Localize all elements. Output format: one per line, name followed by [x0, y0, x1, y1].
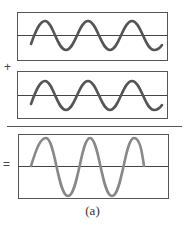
panel-sum-wave — [19, 135, 169, 199]
panel-wave-1 — [18, 13, 168, 61]
panel-wave-2 — [18, 72, 168, 119]
equals-operator: = — [3, 157, 10, 171]
panel-frame — [18, 13, 168, 61]
superposition-diagram — [0, 0, 185, 231]
figure-caption: (a) — [0, 203, 185, 219]
plus-operator: + — [4, 60, 11, 74]
